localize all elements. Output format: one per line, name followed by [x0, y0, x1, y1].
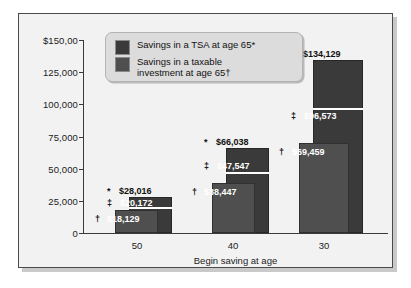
value-label-taxable-age-30: $69,459	[292, 147, 325, 157]
dagger-mark-age-40: †	[192, 187, 197, 197]
x-tick-label-50: 50	[97, 240, 177, 251]
midline-age-30	[313, 108, 363, 110]
value-label-tsa-age-30: $134,129	[303, 49, 341, 59]
legend-item-tsa[interactable]: Savings in a TSA at age 65*	[115, 40, 255, 55]
x-tick-label-30: 30	[284, 240, 364, 251]
star-mark-age-40: *	[204, 137, 208, 147]
y-tick-label-125000: 125,000	[0, 67, 78, 78]
y-tick-label-25000: 25,000	[0, 196, 78, 207]
legend-label-taxable: Savings in a taxable investment at age 6…	[137, 57, 230, 78]
chart-figure: $150,00 125,000 100,000 75,000 50,000 25…	[0, 0, 411, 288]
double-dagger-mark-age-40: ‡	[204, 161, 209, 171]
star-mark-age-50: *	[107, 186, 111, 196]
dagger-mark-age-30: †	[279, 147, 284, 157]
chart-panel: $150,00 125,000 100,000 75,000 50,000 25…	[18, 13, 393, 268]
plot-area: $150,00 125,000 100,000 75,000 50,000 25…	[19, 14, 394, 269]
y-tick-125000	[79, 72, 84, 73]
y-tick-75000	[79, 137, 84, 138]
legend-swatch-taxable-icon	[115, 57, 130, 72]
value-label-taxable-age-40: $38,447	[204, 187, 237, 197]
double-dagger-mark-age-30: ‡	[291, 111, 296, 121]
chart-legend: Savings in a TSA at age 65* Savings in a…	[105, 32, 303, 82]
legend-swatch-tsa-icon	[115, 40, 130, 55]
value-label-mid-age-50: $20,172	[120, 198, 153, 208]
double-dagger-mark-age-50: ‡	[107, 198, 112, 208]
value-label-mid-age-30: $96,573	[304, 111, 337, 121]
y-tick-label-0: 0	[0, 228, 78, 239]
legend-item-taxable[interactable]: Savings in a taxable investment at age 6…	[115, 57, 230, 78]
x-axis-title: Begin saving at age	[83, 255, 388, 266]
value-label-taxable-age-50: $18,129	[107, 214, 140, 224]
legend-label-taxable-line1: Savings in a taxable	[137, 56, 222, 67]
y-tick-label-50000: 50,000	[0, 164, 78, 175]
value-label-tsa-age-50: $28,016	[119, 186, 152, 196]
x-axis-line	[83, 233, 388, 234]
midline-age-40	[226, 172, 269, 174]
legend-label-taxable-line2: investment at age 65†	[137, 67, 230, 78]
value-label-mid-age-40: $47,547	[217, 161, 250, 171]
value-label-tsa-age-40: $66,038	[216, 137, 249, 147]
y-tick-label-75000: 75,000	[0, 132, 78, 143]
y-tick-100000	[79, 104, 84, 105]
y-tick-label-150000: $150,00	[0, 35, 78, 46]
y-tick-25000	[79, 201, 84, 202]
legend-label-tsa: Savings in a TSA at age 65*	[137, 40, 255, 51]
y-tick-50000	[79, 169, 84, 170]
x-tick-label-40: 40	[193, 240, 273, 251]
y-tick-150000	[79, 40, 84, 41]
y-tick-label-100000: 100,000	[0, 99, 78, 110]
dagger-mark-age-50: †	[95, 214, 100, 224]
y-tick-0	[79, 233, 84, 234]
